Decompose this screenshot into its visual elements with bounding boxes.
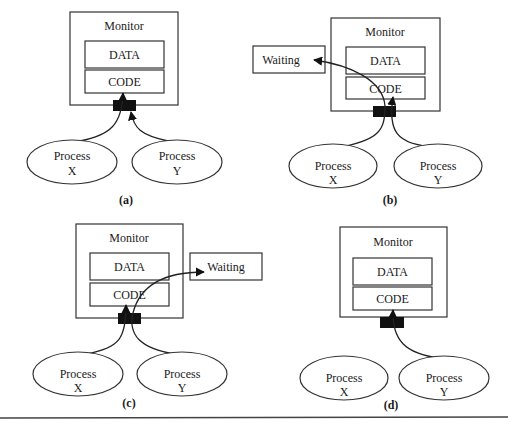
process-y-label: Process (164, 367, 201, 381)
process-x-id: X (329, 173, 338, 187)
panel-caption: (b) (383, 193, 398, 207)
panel-d: Monitor DATA CODE Process X Process Y (d… (300, 227, 489, 412)
monitor-title: Monitor (365, 25, 404, 39)
monitor-title: Monitor (109, 231, 148, 245)
arrow-y-to-gate (131, 112, 168, 141)
horizontal-rule (0, 417, 508, 418)
process-y-id: Y (173, 164, 182, 178)
monitor-title: Monitor (373, 235, 412, 249)
process-x-label: Process (315, 159, 352, 173)
process-x-id: X (74, 381, 83, 395)
panel-caption: (d) (384, 398, 399, 412)
panel-c: Monitor DATA CODE Waiting Process X Proc… (33, 224, 262, 410)
code-label: CODE (108, 75, 141, 89)
process-y-label: Process (159, 149, 196, 163)
process-x-label: Process (54, 149, 91, 163)
process-y-label: Process (420, 159, 457, 173)
data-label: DATA (109, 48, 140, 62)
process-y-label: Process (426, 371, 463, 385)
code-label: CODE (376, 292, 409, 306)
process-y-id: Y (178, 381, 187, 395)
waiting-label: Waiting (262, 53, 300, 67)
process-x-id: X (340, 385, 349, 399)
lock-gate-icon (118, 313, 141, 324)
process-y-id: Y (434, 173, 443, 187)
panel-caption: (c) (122, 396, 135, 410)
panel-a: Monitor DATA CODE Process X Process Y (a… (27, 12, 222, 207)
process-x-label: Process (60, 367, 97, 381)
process-x-id: X (68, 164, 77, 178)
panel-b: Monitor DATA CODE Waiting Process X Proc… (253, 18, 482, 207)
lock-gate-icon (380, 317, 404, 328)
data-label: DATA (114, 260, 145, 274)
panel-caption: (a) (119, 193, 133, 207)
monitor-title: Monitor (104, 19, 143, 33)
data-label: DATA (370, 54, 401, 68)
lock-gate-icon (113, 100, 136, 111)
process-x-label: Process (326, 371, 363, 385)
process-y-id: Y (440, 385, 449, 399)
waiting-label: Waiting (207, 260, 245, 274)
data-label: DATA (377, 265, 408, 279)
monitor-diagram: Monitor DATA CODE Process X Process Y (a… (0, 0, 516, 431)
